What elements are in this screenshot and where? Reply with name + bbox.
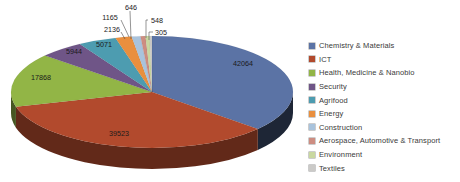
legend-label-5: Energy	[319, 109, 343, 118]
legend-item-9[interactable]: Textiles	[309, 161, 440, 175]
legend-label-8: Environment	[319, 150, 362, 159]
legend-item-4[interactable]: Agrifood	[309, 93, 440, 107]
legend-label-3: Security	[319, 82, 347, 91]
legend-label-6: Construction	[319, 123, 362, 132]
legend-label-7: Aerospace, Automotive & Transport	[319, 136, 440, 145]
legend-label-9: Textiles	[319, 164, 345, 173]
legend-swatch-2	[309, 70, 315, 76]
data-label-6: 1165	[102, 13, 117, 22]
legend-swatch-1	[309, 56, 315, 62]
legend-label-0: Chemistry & Materials	[319, 41, 394, 50]
legend-item-7[interactable]: Aerospace, Automotive & Transport	[309, 134, 440, 148]
legend-item-2[interactable]: Health, Medicine & Nanobio	[309, 66, 440, 80]
legend-item-6[interactable]: Construction	[309, 121, 440, 135]
legend-label-4: Agrifood	[319, 96, 348, 105]
data-label-0: 42064	[233, 59, 253, 68]
leader-line-8	[146, 20, 148, 38]
data-label-8: 548	[151, 16, 163, 25]
chart-legend: Chemistry & MaterialsICTHealth, Medicine…	[309, 39, 440, 175]
leader-line-7	[130, 11, 131, 39]
data-label-1: 39523	[109, 129, 129, 138]
legend-item-5[interactable]: Energy	[309, 107, 440, 121]
legend-swatch-0	[309, 43, 315, 49]
pie-3d-chart: 4206439523178685944507121361165646548305	[0, 0, 308, 182]
data-label-2: 17868	[31, 73, 51, 82]
legend-swatch-9	[309, 165, 315, 171]
legend-swatch-3	[309, 84, 315, 90]
legend-swatch-4	[309, 97, 315, 103]
legend-label-1: ICT	[319, 55, 331, 64]
legend-swatch-8	[309, 152, 315, 158]
chart-canvas: 4206439523178685944507121361165646548305…	[0, 0, 460, 182]
data-label-7: 646	[125, 3, 137, 12]
data-label-4: 5071	[96, 40, 112, 49]
legend-swatch-5	[309, 111, 315, 117]
legend-swatch-6	[309, 124, 315, 130]
legend-swatch-7	[309, 138, 315, 144]
data-label-9: 305	[155, 28, 167, 37]
legend-item-1[interactable]: ICT	[309, 53, 440, 67]
data-label-3: 5944	[66, 47, 82, 56]
legend-label-2: Health, Medicine & Nanobio	[319, 68, 415, 77]
legend-item-0[interactable]: Chemistry & Materials	[309, 39, 440, 53]
legend-item-8[interactable]: Environment	[309, 148, 440, 162]
legend-item-3[interactable]: Security	[309, 80, 440, 94]
data-label-5: 2136	[104, 25, 120, 34]
